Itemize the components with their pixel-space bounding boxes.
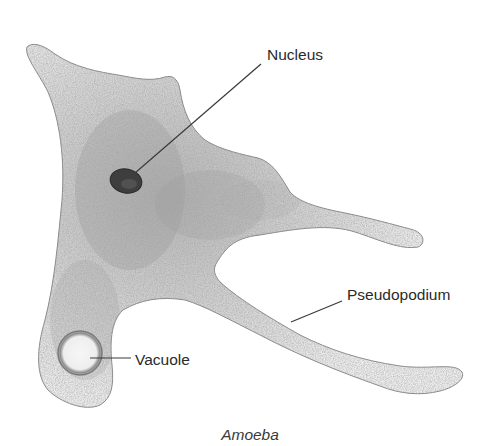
nucleus-highlight — [121, 179, 137, 189]
cytoplasm-texture — [0, 0, 498, 446]
vacuole-label: Vacuole — [135, 351, 190, 368]
pseudopodium-label: Pseudopodium — [347, 286, 450, 303]
nucleus-label: Nucleus — [267, 46, 323, 63]
amoeba-diagram: Nucleus Pseudopodium Vacuole Amoeba — [0, 0, 498, 446]
pseudopodium-leader-line — [291, 301, 342, 322]
figure-caption: Amoeba — [220, 426, 279, 443]
amoeba-body — [0, 0, 498, 446]
vacuole — [58, 331, 102, 375]
